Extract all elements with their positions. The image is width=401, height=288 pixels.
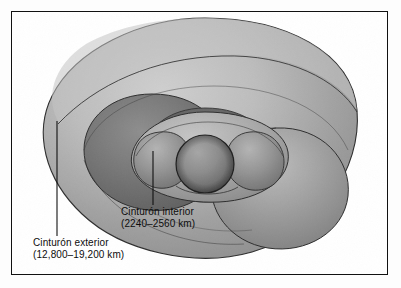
label-outer-belt: Cinturón exterior (12,800–19,200 km)	[33, 237, 124, 260]
label-outer-belt-range: (12,800–19,200 km)	[33, 249, 124, 261]
label-outer-belt-name: Cinturón exterior	[33, 237, 124, 249]
figure-container: Cinturón interior (2240–2560 km) Cinturó…	[0, 0, 401, 288]
label-inner-belt-range: (2240–2560 km)	[121, 218, 195, 230]
figure-frame	[11, 11, 388, 275]
label-inner-belt-name: Cinturón interior	[121, 206, 195, 218]
label-inner-belt: Cinturón interior (2240–2560 km)	[121, 206, 195, 229]
